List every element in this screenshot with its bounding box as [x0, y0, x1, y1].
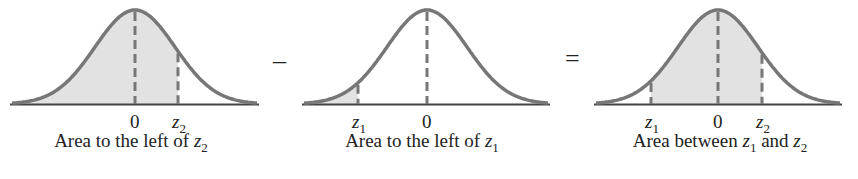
tick-z1: z1 — [645, 112, 659, 131]
minus-operator: – — [273, 46, 286, 76]
normal-curves-diagram — [0, 0, 858, 179]
panel-between-z1-z2 — [594, 10, 842, 105]
tick-z1: z1 — [352, 112, 366, 131]
caption-between-z1-z2: Area between z1 and z2 — [633, 130, 807, 152]
tick-zero: 0 — [422, 112, 432, 131]
tick-z2: z2 — [172, 112, 186, 131]
caption-left-of-z1: Area to the left of z1 — [345, 130, 499, 152]
tick-zero: 0 — [713, 112, 723, 131]
caption-left-of-z2: Area to the left of z2 — [54, 130, 208, 152]
tick-z2: z2 — [756, 112, 770, 131]
equals-operator: = — [565, 44, 580, 74]
panel-left-of-z1 — [302, 10, 550, 105]
tick-zero: 0 — [130, 112, 140, 131]
panel-left-of-z2 — [10, 10, 259, 105]
